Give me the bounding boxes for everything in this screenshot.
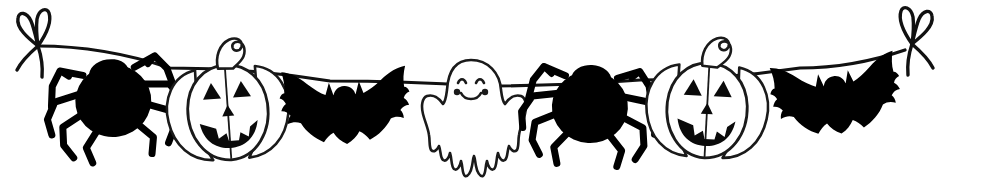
halloween-garland-illustration: Halloween Garland Bunting: [0, 0, 999, 191]
garland-canvas: [0, 0, 999, 191]
